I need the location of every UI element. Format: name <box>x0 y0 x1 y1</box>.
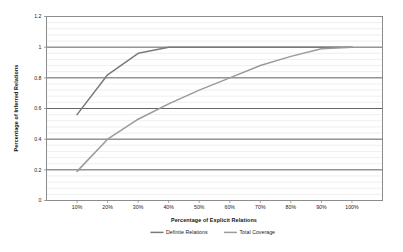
y-tick-label: 0.4 <box>34 136 41 142</box>
line-chart: 00.20.40.60.811.2 10%20%30%40%50%60%70%8… <box>0 0 403 252</box>
legend-label-1: Definite Relations <box>166 229 208 235</box>
chart-container: 00.20.40.60.811.2 10%20%30%40%50%60%70%8… <box>0 0 403 252</box>
y-tick-label: 0 <box>39 197 42 203</box>
y-tick-label: 0.6 <box>34 105 41 111</box>
y-tick-label: 0.8 <box>34 75 41 81</box>
x-tick-label: 70% <box>255 204 266 210</box>
y-axis-title: Percentage of Inferred Relations <box>13 65 19 152</box>
x-tick-label: 90% <box>316 204 327 210</box>
y-tick-label: 1 <box>39 44 42 50</box>
y-tick-label: 0.2 <box>34 167 41 173</box>
x-tick-label: 80% <box>286 204 297 210</box>
x-tick-label: 10% <box>72 204 83 210</box>
x-tick-label: 30% <box>133 204 144 210</box>
x-axis-title: Percentage of Explicit Relations <box>171 217 257 223</box>
x-tick-label: 60% <box>224 204 235 210</box>
legend-label-2: Total Coverage <box>239 229 275 235</box>
x-tick-label: 20% <box>102 204 113 210</box>
x-tick-label: 100% <box>345 204 359 210</box>
chart-background <box>0 0 403 252</box>
x-tick-label: 40% <box>163 204 174 210</box>
x-tick-label: 50% <box>194 204 205 210</box>
y-tick-label: 1.2 <box>34 13 41 19</box>
